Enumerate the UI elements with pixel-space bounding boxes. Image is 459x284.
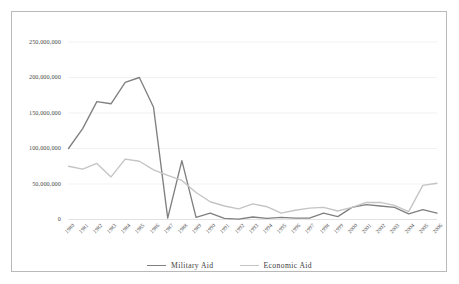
- legend-line-swatch-icon: [240, 265, 259, 266]
- legend-entry: Military Aid: [147, 261, 214, 270]
- y-axis-tick-label: 50,000,000: [5, 181, 61, 187]
- legend-entry: Economic Aid: [240, 261, 312, 270]
- y-axis-tick-label: 250,000,000: [5, 39, 61, 45]
- y-axis-tick-label: 200,000,000: [5, 74, 61, 80]
- legend-label: Economic Aid: [264, 261, 312, 270]
- y-axis-tick-label: 100,000,000: [5, 145, 61, 151]
- legend-line-swatch-icon: [147, 265, 166, 266]
- legend-label: Military Aid: [171, 261, 214, 270]
- y-axis-tick-label: 150,000,000: [5, 110, 61, 116]
- chart-legend: Military AidEconomic Aid: [0, 261, 459, 270]
- y-axis-tick-label: 0: [5, 216, 61, 222]
